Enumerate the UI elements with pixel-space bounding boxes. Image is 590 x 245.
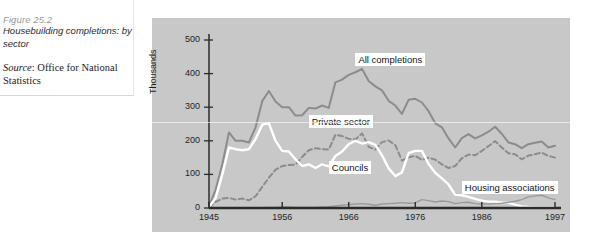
series-label-housing-associations: Housing associations [462,181,558,194]
figure-caption: Figure 25.2 Housebuilding completions: b… [0,0,140,100]
figure-number: Figure 25.2 [3,14,52,25]
y-tick-label: 200 [152,135,200,145]
y-tick-label: 500 [152,34,200,44]
figure-source: Source: Office for National Statistics [3,61,135,87]
figure-title: Housebuilding completions: by sector [3,25,135,50]
y-tick-label: 300 [152,101,200,111]
source-label: Source [3,62,32,73]
y-tick-label: 400 [152,68,200,78]
x-tick-label: 1966 [335,212,363,222]
x-tick-label: 1976 [401,212,429,222]
y-tick-label: 100 [152,168,200,178]
caption-divider [0,95,133,96]
x-tick-label: 1997 [541,212,569,222]
series-label-private-sector: Private sector [309,115,373,128]
series-label-councils: Councils [329,161,371,174]
x-tick-label: 1945 [195,212,223,222]
series-line-private-sector [209,133,555,207]
series-label-all-completions: All completions [355,53,425,66]
x-tick-label: 1986 [468,212,496,222]
caption-divider-vertical [133,0,134,96]
y-tick-label: 0 [152,202,200,212]
chart-panel: Thousands 0100200300400500 1945195619661… [152,18,570,232]
x-tick-label: 1956 [268,212,296,222]
